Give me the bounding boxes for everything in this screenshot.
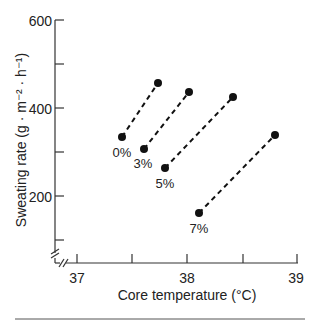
axes (51, 20, 298, 267)
x-tick-38: 38 (179, 270, 195, 286)
point-3-high (185, 88, 193, 96)
point-0-high (154, 79, 162, 87)
series-label-5: 5% (156, 176, 175, 191)
point-7-low (195, 209, 203, 217)
y-tick-400: 400 (29, 101, 53, 117)
series-points (118, 79, 279, 217)
y-tick-600: 600 (29, 13, 53, 29)
x-tick-37: 37 (69, 270, 85, 286)
x-axis-label: Core temperature (°C) (118, 287, 257, 303)
y-tick-200: 200 (29, 189, 53, 205)
chart: 600 400 200 37 38 39 Core temperature (°… (0, 0, 318, 321)
point-0-low (118, 133, 126, 141)
point-3-low (140, 145, 148, 153)
y-axis-label: Sweating rate (g · m⁻² · h⁻¹) (13, 53, 29, 227)
series-label-0: 0% (113, 145, 132, 160)
series-label-3: 3% (134, 156, 153, 171)
point-5-high (229, 93, 237, 101)
point-7-high (271, 131, 279, 139)
series-label-7: 7% (190, 221, 209, 236)
point-5-low (161, 164, 169, 172)
x-tick-39: 39 (288, 270, 304, 286)
